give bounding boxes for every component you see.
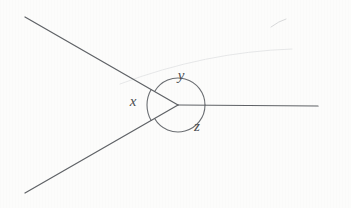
angle-label-z: z: [193, 118, 200, 134]
geometry-figure: x y z: [0, 0, 351, 208]
angle-label-y: y: [176, 67, 185, 83]
diagram-canvas: x y z: [0, 0, 351, 208]
angle-label-x: x: [129, 93, 137, 109]
